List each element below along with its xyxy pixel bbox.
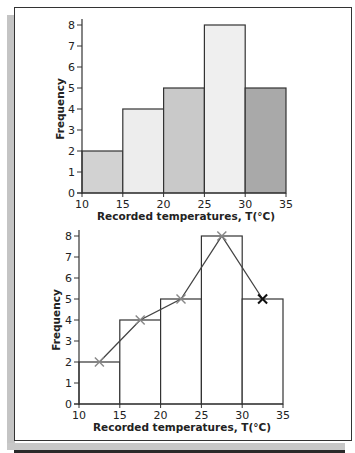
y-tick-label: 3 <box>65 335 72 348</box>
y-tick-label: 8 <box>65 230 72 243</box>
y-tick-label: 2 <box>65 356 72 369</box>
y-tick-label: 1 <box>65 377 72 390</box>
histogram-bar <box>161 299 202 404</box>
y-tick-label: 4 <box>65 314 72 327</box>
x-tick-label: 35 <box>276 409 290 422</box>
frequency-polygon-chart: 012345678 101520253035 Frequency Recorde… <box>0 0 355 453</box>
bars <box>79 236 283 404</box>
x-axis: 101520253035 <box>72 404 290 422</box>
y-tick-label: 0 <box>65 398 72 411</box>
x-tick-label: 10 <box>72 409 86 422</box>
y-tick-label: 6 <box>65 272 72 285</box>
histogram-bar <box>79 362 120 404</box>
histogram-bar <box>242 299 283 404</box>
y-axis: 012345678 <box>65 230 79 411</box>
histogram-bar <box>120 320 161 404</box>
y-tick-label: 5 <box>65 293 72 306</box>
x-axis-title: Recorded temperatures, T(°C) <box>93 421 271 433</box>
histogram-bar <box>201 236 242 404</box>
y-axis-title: Frequency <box>50 289 62 351</box>
y-tick-label: 7 <box>65 251 72 264</box>
